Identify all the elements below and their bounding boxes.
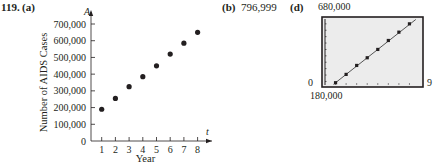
- calc-data-point: [345, 73, 348, 76]
- y-tick-label: 300,000: [54, 85, 87, 96]
- y-tick-label: 700,000: [54, 19, 87, 30]
- y-tick-label: 0: [81, 136, 86, 147]
- scatter-labels: 123456780100,000200,000300,000400,000500…: [38, 6, 209, 164]
- calc-data-point: [334, 81, 337, 84]
- data-point: [195, 30, 200, 35]
- data-point: [154, 63, 159, 68]
- calc-data-point: [397, 31, 400, 34]
- x-axis-variable: t: [206, 126, 209, 137]
- data-point: [99, 107, 104, 112]
- calculator-screen: [322, 17, 423, 87]
- y-tick-label: 100,000: [54, 119, 87, 130]
- data-point: [127, 84, 132, 89]
- y-tick-label: 500,000: [54, 52, 87, 63]
- x-tick-label: 3: [127, 144, 132, 155]
- calc-data-point: [376, 48, 379, 51]
- x-tick-label: 1: [99, 144, 104, 155]
- y-tick-label: 600,000: [54, 35, 87, 46]
- x-tick-label: 7: [181, 144, 186, 155]
- calc-data-point: [355, 64, 358, 67]
- x-tick-label: 2: [113, 144, 118, 155]
- ymax-label: 680,000: [318, 1, 351, 12]
- ymin-label: 180,000: [310, 90, 343, 101]
- calc-data-point: [408, 22, 411, 25]
- y-tick-label: 400,000: [54, 69, 87, 80]
- data-point: [168, 51, 173, 56]
- x-axis-arrow-icon: [206, 139, 212, 143]
- y-axis-title: Number of AIDS Cases: [38, 33, 49, 132]
- xmax-label: 9: [427, 77, 432, 88]
- x-axis-title: Year: [136, 153, 156, 164]
- data-point: [140, 74, 145, 79]
- scatter-plot: 123456780100,000200,000300,000400,000500…: [0, 0, 230, 166]
- x-tick-label: 6: [168, 144, 173, 155]
- scatter-points: [99, 30, 200, 112]
- calc-data-point: [387, 39, 390, 42]
- x-tick-label: 8: [195, 144, 200, 155]
- data-point: [181, 41, 186, 46]
- scatter-axes: [89, 10, 212, 143]
- y-tick-label: 200,000: [54, 102, 87, 113]
- part-b-answer: 796,999: [241, 1, 277, 13]
- data-point: [113, 96, 118, 101]
- xmin-label: 0: [308, 77, 313, 88]
- y-axis-variable: A: [83, 6, 91, 17]
- calc-data-point: [366, 56, 369, 59]
- calculator-graph: 680,00009180,000: [290, 0, 436, 110]
